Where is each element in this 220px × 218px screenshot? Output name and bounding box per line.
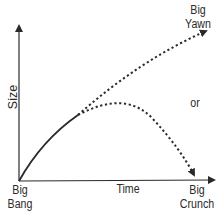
big-crunch-curve (78, 103, 194, 175)
big-yawn-label: Big Yawn (181, 3, 215, 31)
big-crunch-label: Big Crunch (177, 183, 216, 211)
expansion-curve (19, 115, 78, 181)
y-axis-label: Size (6, 82, 20, 112)
big-crunch-line2: Crunch (177, 197, 216, 211)
x-axis (19, 180, 214, 181)
big-yawn-line1: Big (181, 3, 215, 17)
big-bang-label: Big Bang (5, 183, 36, 211)
big-bang-line1: Big (5, 183, 36, 197)
big-yawn-line2: Yawn (181, 17, 215, 31)
big-crunch-line1: Big (177, 183, 216, 197)
big-bang-line2: Bang (5, 197, 36, 211)
x-axis-label: Time (111, 182, 145, 196)
or-label: or (185, 96, 205, 110)
